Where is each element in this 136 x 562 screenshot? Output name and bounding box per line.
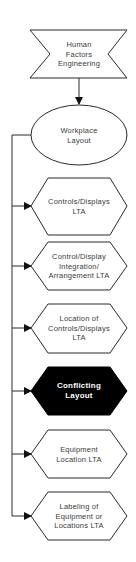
child-label-2: Control/Display Integration/ Arrangement… [34, 252, 124, 281]
diagram-canvas [0, 0, 136, 562]
top-event-label: Human Factors Engineering [50, 40, 108, 69]
child-label-5: Equipment Location LTA [34, 445, 124, 464]
child-label-3: Location of Controls/Displays LTA [34, 314, 124, 343]
child-label-1: Controls/Displays LTA [34, 197, 124, 216]
parent-event-label: Workplace Layout [40, 126, 118, 145]
child-label-6: Labeling of Equipment or Locations LTA [34, 502, 124, 531]
child-label-4: Conflicting Layout [34, 381, 124, 400]
connector-trunk [12, 135, 31, 516]
